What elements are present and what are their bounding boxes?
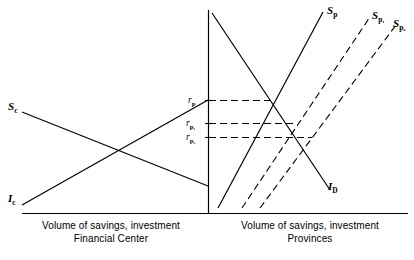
right-caption-line2: Provinces — [212, 232, 408, 245]
curve-sp — [218, 12, 323, 208]
curve-ic — [22, 100, 208, 205]
curve-label-sp: Sp — [327, 4, 337, 19]
economics-diagram-figure: Sc Ic — [0, 0, 414, 260]
right-panel-group: Sp Sp₁ Sp₂ ID rp rp₁ — [186, 4, 406, 213]
left-caption-line1: Volume of savings, investment — [42, 220, 180, 231]
rate-label-rp1: rp₁ — [186, 118, 195, 130]
left-caption-line2: Financial Center — [18, 232, 204, 245]
curve-label-ic: Ic — [7, 192, 16, 207]
rate-label-rp: rp — [188, 95, 196, 107]
rate-label-rp2: rp₂ — [186, 132, 195, 144]
curve-sp1 — [242, 17, 370, 208]
left-panel-caption: Volume of savings, investment Financial … — [18, 219, 204, 245]
right-panel-caption: Volume of savings, investment Provinces — [212, 219, 408, 245]
left-panel-group: Sc Ic — [7, 100, 208, 207]
curve-label-sp1: Sp₁ — [372, 9, 385, 24]
right-caption-line1: Volume of savings, investment — [241, 220, 379, 231]
curve-id — [212, 13, 330, 190]
curve-label-id: ID — [327, 180, 338, 195]
curve-label-sp2: Sp₂ — [393, 17, 406, 32]
curve-sc — [22, 112, 208, 186]
curve-label-sc: Sc — [8, 100, 18, 115]
